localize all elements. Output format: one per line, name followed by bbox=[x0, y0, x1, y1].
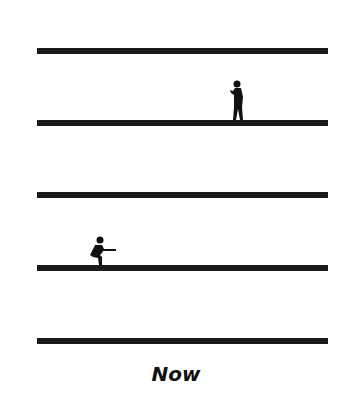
line-2 bbox=[37, 120, 328, 126]
line-5 bbox=[37, 338, 328, 344]
caption: Now bbox=[0, 362, 352, 386]
standing-person-icon bbox=[228, 79, 250, 121]
line-4 bbox=[37, 265, 328, 271]
line-3 bbox=[37, 192, 328, 198]
line-1 bbox=[37, 48, 328, 54]
crouching-person-icon bbox=[88, 235, 120, 265]
